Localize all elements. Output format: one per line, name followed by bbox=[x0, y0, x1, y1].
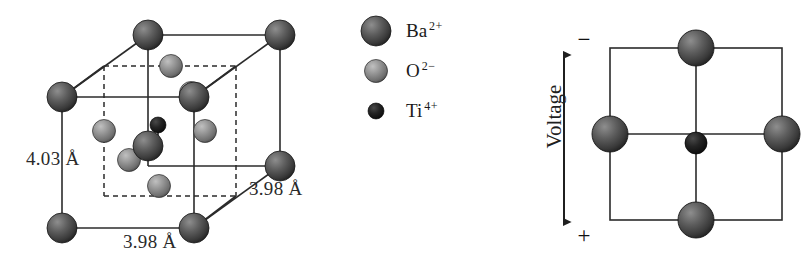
barium-ion bbox=[678, 202, 714, 238]
dimension-label-vertical: 4.03 Å bbox=[26, 148, 80, 170]
titanium-sphere-icon bbox=[354, 94, 398, 128]
oxygen-ion bbox=[148, 175, 171, 198]
polarity-positive: + bbox=[573, 224, 595, 247]
oxygen-ion bbox=[160, 55, 183, 78]
legend-item-o: O2− bbox=[354, 54, 436, 88]
legend-label-ba: Ba2+ bbox=[406, 19, 443, 42]
legend-symbol-ti: Ti bbox=[406, 101, 422, 122]
barium-ion bbox=[179, 82, 209, 112]
oxygen-ion bbox=[93, 120, 116, 143]
barium-ion bbox=[47, 213, 77, 243]
barium-ion bbox=[592, 116, 628, 152]
barium-ion bbox=[678, 30, 714, 66]
barium-ion bbox=[47, 82, 77, 112]
barium-ion bbox=[265, 151, 295, 181]
oxygen-sphere-icon bbox=[354, 54, 398, 88]
voltage-panel: Voltage − + bbox=[520, 0, 804, 269]
legend-item-ti: Ti4+ bbox=[354, 94, 438, 128]
legend-label-ti: Ti4+ bbox=[406, 99, 438, 122]
titanium-ion bbox=[150, 117, 166, 133]
figure-root: 4.03 Å 3.98 Å 3.98 Å bbox=[0, 0, 804, 269]
voltage-axis-label: Voltage bbox=[542, 57, 567, 177]
barium-ion bbox=[265, 20, 295, 50]
oxygen-ion bbox=[194, 120, 217, 143]
unit-cell-panel: 4.03 Å 3.98 Å 3.98 Å bbox=[0, 0, 340, 269]
legend-item-ba: Ba2+ bbox=[354, 14, 443, 48]
polarity-negative: − bbox=[573, 28, 595, 51]
legend-panel: Ba2+ O2− bbox=[340, 0, 520, 269]
dimension-label-bottom: 3.98 Å bbox=[123, 231, 177, 253]
barium-ion bbox=[133, 131, 163, 161]
legend-symbol-ba: Ba bbox=[406, 21, 427, 42]
legend-symbol-o: O bbox=[406, 61, 420, 82]
unit-cell-svg bbox=[0, 0, 340, 269]
barium-atoms bbox=[47, 20, 295, 243]
legend-charge-o: 2− bbox=[422, 59, 436, 73]
legend-label-o: O2− bbox=[406, 59, 436, 82]
titanium-ion bbox=[685, 132, 707, 154]
legend-charge-ba: 2+ bbox=[429, 19, 443, 33]
barium-sphere-icon bbox=[354, 14, 398, 48]
barium-ion bbox=[133, 20, 163, 50]
barium-ion bbox=[764, 116, 800, 152]
dimension-label-right: 3.98 Å bbox=[249, 178, 303, 200]
barium-ion bbox=[179, 213, 209, 243]
legend-charge-ti: 4+ bbox=[424, 99, 438, 113]
